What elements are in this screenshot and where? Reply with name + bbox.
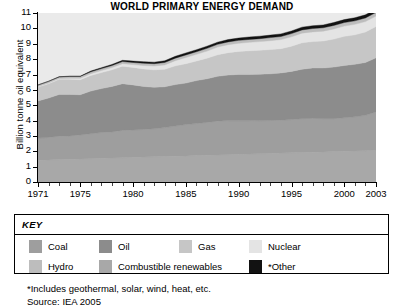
legend-swatch-icon bbox=[179, 240, 192, 253]
x-tick-mark-minor bbox=[112, 183, 113, 186]
legend-item: Combustible renewables bbox=[99, 260, 222, 273]
x-tick-mark-major bbox=[38, 183, 39, 187]
legend-swatch-icon bbox=[99, 260, 112, 273]
x-tick-label: 1980 bbox=[123, 188, 144, 199]
y-tick-label: 8 bbox=[0, 52, 31, 63]
x-tick-mark-major bbox=[344, 183, 345, 187]
x-tick-mark-minor bbox=[165, 183, 166, 186]
x-tick-label: 1975 bbox=[70, 188, 91, 199]
y-tick-mark bbox=[33, 13, 38, 14]
x-tick-mark-minor bbox=[144, 183, 145, 186]
x-tick-mark-minor bbox=[196, 183, 197, 186]
y-tick-mark bbox=[33, 44, 38, 45]
x-tick-mark-minor bbox=[101, 183, 102, 186]
x-tick-mark-minor bbox=[154, 183, 155, 186]
legend-item-label: Gas bbox=[198, 241, 215, 252]
x-tick-mark-minor bbox=[260, 183, 261, 186]
y-tick-label: 4 bbox=[0, 114, 31, 125]
y-tick-label: 10 bbox=[0, 21, 31, 32]
y-tick-mark bbox=[33, 121, 38, 122]
y-tick-mark bbox=[33, 151, 38, 152]
y-tick-mark bbox=[33, 90, 38, 91]
y-tick-mark bbox=[33, 28, 38, 29]
legend-item-label: Hydro bbox=[48, 261, 73, 272]
legend-title: KEY bbox=[22, 219, 42, 230]
y-tick-label: 9 bbox=[0, 37, 31, 48]
plot-area bbox=[38, 13, 376, 182]
y-tick-mark bbox=[33, 167, 38, 168]
x-tick-label: 1971 bbox=[27, 188, 48, 199]
legend-item-label: Coal bbox=[48, 241, 68, 252]
footnote-other: *Includes geothermal, solar, wind, heat,… bbox=[27, 283, 211, 294]
y-axis-line bbox=[37, 12, 38, 183]
x-tick-mark-major bbox=[80, 183, 81, 187]
legend-row-1: CoalOilGasNuclear bbox=[15, 238, 388, 258]
legend-item: Oil bbox=[99, 240, 130, 253]
x-tick-mark-major bbox=[376, 183, 377, 187]
legend-swatch-icon bbox=[29, 240, 42, 253]
y-tick-mark bbox=[33, 59, 38, 60]
x-tick-mark-minor bbox=[355, 183, 356, 186]
legend-swatch-icon bbox=[29, 260, 42, 273]
x-tick-mark-minor bbox=[365, 183, 366, 186]
stacked-area-series bbox=[38, 13, 376, 182]
chart-title: WORLD PRIMARY ENERGY DEMAND bbox=[0, 1, 404, 12]
legend-item: Coal bbox=[29, 240, 68, 253]
x-tick-mark-minor bbox=[59, 183, 60, 186]
legend-swatch-icon bbox=[249, 240, 262, 253]
x-tick-label: 2003 bbox=[365, 188, 386, 199]
x-tick-mark-minor bbox=[207, 183, 208, 186]
y-tick-mark bbox=[33, 136, 38, 137]
legend-item-label: Oil bbox=[118, 241, 130, 252]
x-tick-mark-minor bbox=[123, 183, 124, 186]
y-tick-label: 3 bbox=[0, 129, 31, 140]
legend-item: Hydro bbox=[29, 260, 73, 273]
x-tick-mark-minor bbox=[270, 183, 271, 186]
x-tick-mark-minor bbox=[91, 183, 92, 186]
x-tick-label: 1990 bbox=[228, 188, 249, 199]
x-tick-mark-minor bbox=[249, 183, 250, 186]
legend-divider bbox=[15, 234, 388, 235]
legend-row-2: HydroCombustible renewables*Other bbox=[15, 258, 388, 278]
x-tick-mark-minor bbox=[313, 183, 314, 186]
x-tick-mark-minor bbox=[302, 183, 303, 186]
y-tick-label: 7 bbox=[0, 68, 31, 79]
legend-item-label: Nuclear bbox=[268, 241, 301, 252]
y-tick-label: 2 bbox=[0, 144, 31, 155]
y-tick-mark bbox=[33, 105, 38, 106]
y-tick-label: 0 bbox=[0, 175, 31, 186]
x-tick-mark-minor bbox=[175, 183, 176, 186]
legend-item: *Other bbox=[249, 260, 295, 273]
legend-item: Gas bbox=[179, 240, 215, 253]
x-tick-mark-major bbox=[292, 183, 293, 187]
x-tick-mark-minor bbox=[334, 183, 335, 186]
legend-item: Nuclear bbox=[249, 240, 301, 253]
legend-item-label: *Other bbox=[268, 261, 295, 272]
x-tick-mark-major bbox=[186, 183, 187, 187]
y-tick-mark bbox=[33, 75, 38, 76]
x-tick-mark-major bbox=[239, 183, 240, 187]
legend-box: KEY CoalOilGasNuclear HydroCombustible r… bbox=[14, 214, 389, 274]
y-tick-label: 11 bbox=[0, 6, 31, 17]
footnote-source: Source: IEA 2005 bbox=[27, 296, 101, 307]
y-tick-label: 6 bbox=[0, 83, 31, 94]
x-tick-mark-minor bbox=[218, 183, 219, 186]
x-tick-label: 1995 bbox=[281, 188, 302, 199]
y-tick-label: 1 bbox=[0, 160, 31, 171]
y-tick-label: 5 bbox=[0, 98, 31, 109]
x-tick-mark-minor bbox=[281, 183, 282, 186]
x-tick-label: 1985 bbox=[175, 188, 196, 199]
x-tick-mark-minor bbox=[228, 183, 229, 186]
x-tick-mark-minor bbox=[323, 183, 324, 186]
legend-swatch-icon bbox=[99, 240, 112, 253]
legend-swatch-icon bbox=[249, 260, 262, 273]
x-tick-mark-minor bbox=[70, 183, 71, 186]
legend-item-label: Combustible renewables bbox=[118, 261, 222, 272]
x-tick-mark-minor bbox=[49, 183, 50, 186]
x-tick-mark-major bbox=[133, 183, 134, 187]
x-tick-label: 2000 bbox=[334, 188, 355, 199]
